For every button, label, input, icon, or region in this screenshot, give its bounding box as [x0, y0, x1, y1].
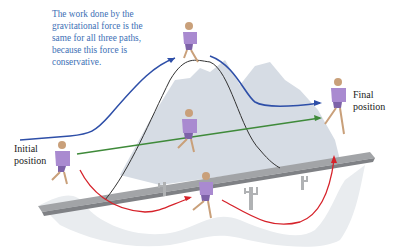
label-line: Final [353, 89, 385, 101]
caption-line: because this force is [52, 44, 172, 56]
caption-line: conservative. [52, 56, 172, 68]
runner-final [325, 78, 346, 134]
arrow-head-blue-2 [314, 100, 322, 106]
label-line: position [14, 155, 46, 167]
runner-initial [52, 141, 70, 184]
runner-top [183, 22, 198, 62]
caption-line: The work done by the [52, 8, 172, 20]
caption-text: The work done by the gravitational force… [52, 8, 172, 68]
initial-position-label: Initial position [14, 143, 46, 167]
final-position-label: Final position [353, 89, 385, 113]
caption-line: same for all three paths, [52, 32, 172, 44]
caption-line: gravitational force is the [52, 20, 172, 32]
label-line: Initial [14, 143, 46, 155]
label-line: position [353, 101, 385, 113]
